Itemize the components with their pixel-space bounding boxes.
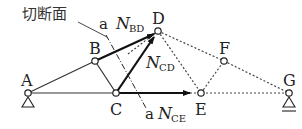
label-C: C [110,100,122,119]
node-C [113,90,119,96]
triangle-icon [283,97,295,107]
node-B [92,58,98,64]
member-EF [201,61,224,93]
force-subscript: CE [171,113,186,124]
node-G [286,90,292,96]
truss-diagram: A B C D E F G 切断面 a a N BD N CD N CE [0,0,302,129]
member-FG [224,61,289,93]
label-F: F [219,39,230,58]
node-F [221,58,227,64]
node-D [155,28,161,34]
force-label-NCD: N CD [145,53,175,73]
member-AB [28,61,95,93]
section-plane-label: 切断面 [22,5,67,23]
roller-support-G [282,97,296,111]
node-E [198,90,204,96]
force-label-NBD: N BD [115,14,144,34]
label-D: D [152,9,165,28]
solid-members [28,61,116,93]
force-arrows [95,34,190,93]
section-mark-bottom: a [145,105,154,123]
triangle-icon [22,97,34,107]
member-BC [95,61,116,93]
label-E: E [195,100,207,119]
label-A: A [20,71,33,90]
label-B: B [89,39,101,58]
pin-support-A [22,97,34,107]
force-label-NCE: N CE [157,104,186,124]
section-mark-top: a [99,15,108,33]
force-subscript: BD [129,23,144,34]
force-subscript: CD [159,62,175,73]
label-G: G [283,71,296,90]
node-A [25,90,31,96]
